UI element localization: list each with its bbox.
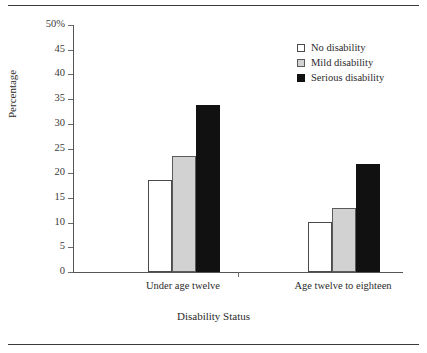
- legend-swatch-icon: [297, 59, 305, 67]
- y-tick-label: 15: [55, 191, 66, 203]
- legend-label: No disability: [311, 42, 366, 53]
- y-tick-label: 5: [60, 240, 65, 252]
- legend-label: Mild disability: [311, 57, 373, 68]
- y-tick-mark: [68, 124, 73, 125]
- y-tick-label: 50%: [46, 18, 65, 30]
- y-tick-label: 45: [55, 43, 66, 55]
- top-rule: [8, 5, 419, 6]
- y-axis-title: Percentage: [6, 70, 18, 118]
- x-category-label: Under age twelve: [103, 280, 263, 291]
- y-tick-mark: [68, 173, 73, 174]
- y-tick-mark: [68, 272, 73, 273]
- figure-bar-chart: Percentage 50%454035302520151050 Under a…: [0, 0, 427, 353]
- y-tick-label: 10: [55, 216, 66, 228]
- bar: [172, 156, 196, 272]
- y-tick-label: 25: [55, 142, 66, 154]
- bar: [356, 164, 380, 272]
- y-tick-label: 40: [55, 67, 66, 79]
- x-axis-title: Disability Status: [0, 310, 427, 322]
- y-tick-mark: [68, 198, 73, 199]
- legend-item: Serious disability: [297, 70, 384, 85]
- bar: [148, 180, 172, 272]
- legend: No disabilityMild disabilitySerious disa…: [297, 40, 384, 85]
- x-category-label: Age twelve to eighteen: [263, 280, 423, 291]
- x-axis-center-tick: [238, 272, 239, 277]
- bar: [332, 208, 356, 272]
- y-tick-mark: [68, 149, 73, 150]
- y-tick-label: 35: [55, 92, 66, 104]
- y-tick-label: 30: [55, 117, 66, 129]
- y-tick-mark: [68, 223, 73, 224]
- y-tick-mark: [68, 247, 73, 248]
- legend-swatch-icon: [297, 44, 305, 52]
- legend-item: Mild disability: [297, 55, 384, 70]
- legend-label: Serious disability: [311, 72, 384, 83]
- legend-swatch-icon: [297, 74, 305, 82]
- y-tick-mark: [68, 99, 73, 100]
- bar: [308, 222, 332, 272]
- bottom-rule: [8, 344, 419, 345]
- y-tick-mark: [68, 74, 73, 75]
- bar: [196, 105, 220, 272]
- y-tick-label: 20: [55, 166, 66, 178]
- legend-item: No disability: [297, 40, 384, 55]
- y-tick-label: 0: [60, 265, 65, 277]
- y-tick-mark: [68, 25, 73, 26]
- y-tick-mark: [68, 50, 73, 51]
